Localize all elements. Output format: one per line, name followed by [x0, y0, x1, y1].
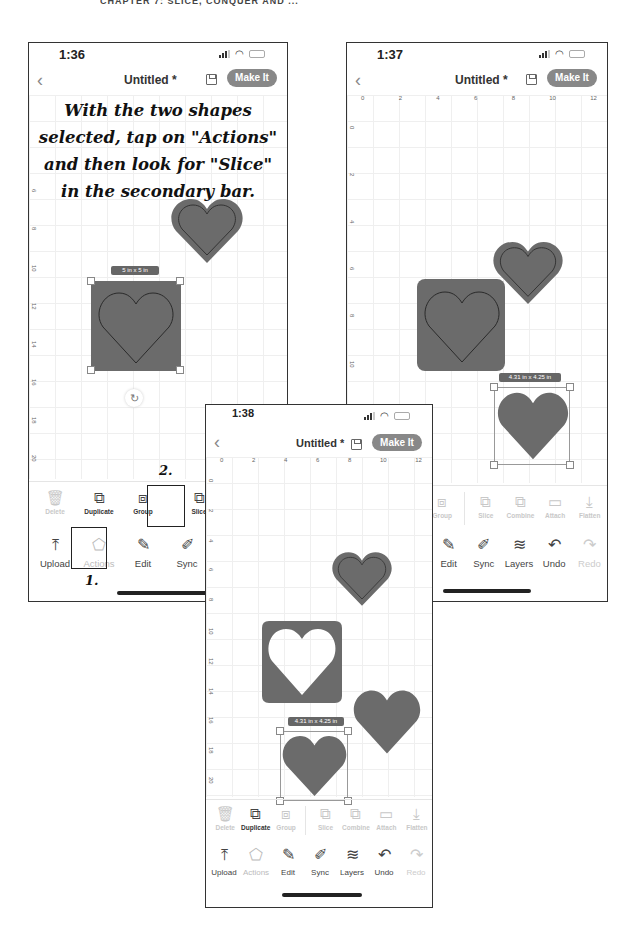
trash-icon: 🗑: [46, 490, 65, 505]
layers-icon: ≋: [346, 847, 359, 863]
sync-button[interactable]: ✐Sync: [304, 843, 336, 887]
home-indicator: [117, 591, 207, 595]
clock: 1:36: [59, 47, 85, 62]
delete-button[interactable]: 🗑Delete: [35, 482, 75, 529]
resize-handle[interactable]: [87, 366, 95, 374]
slice-button[interactable]: ⧉Slice: [310, 800, 340, 841]
ruler-left: 02468101214161820: [206, 469, 216, 797]
flatten-button[interactable]: ⤓Flatten: [402, 800, 432, 841]
design-canvas[interactable]: 024681012 02468101214161820 4.31 in x 4.…: [206, 457, 432, 797]
home-indicator: [282, 893, 362, 897]
rotate-icon[interactable]: ↻: [125, 389, 143, 407]
attach-button[interactable]: ▭Attach: [538, 486, 573, 531]
upload-button[interactable]: ⤒Upload: [208, 843, 240, 887]
flatten-button[interactable]: ⤓Flatten: [572, 486, 607, 531]
edit-button[interactable]: ✎Edit: [272, 843, 304, 887]
redo-button[interactable]: ↷Redo: [572, 533, 607, 579]
duplicate-button[interactable]: ⧉Duplicate: [240, 800, 270, 841]
nav-bar: ‹ Untitled * Make It: [206, 431, 432, 455]
duplicate-button[interactable]: ⧉Duplicate: [79, 482, 119, 529]
save-icon[interactable]: [206, 74, 217, 85]
group-icon: ⧈: [281, 806, 291, 821]
wifi-icon: ◠: [235, 50, 244, 58]
make-it-button[interactable]: Make It: [372, 434, 422, 451]
flatten-icon: ⤓: [586, 494, 593, 509]
dimension-label: 4.31 in x 4.25 in: [288, 717, 344, 726]
resize-handle[interactable]: [176, 277, 184, 285]
heart-outlined-shape[interactable]: [332, 549, 392, 609]
project-title: Untitled *: [296, 437, 344, 449]
toolbar-divider: [305, 806, 306, 835]
resize-handle[interactable]: [344, 727, 352, 735]
project-title: Untitled *: [455, 73, 508, 87]
resize-handle[interactable]: [566, 383, 574, 391]
signal-icon: [364, 412, 375, 420]
ruler-top: 024681012: [216, 457, 432, 469]
edit-button[interactable]: ✎Edit: [431, 533, 466, 579]
ruler-left: 68101214161820: [29, 175, 39, 479]
redo-button[interactable]: ↷Redo: [400, 843, 432, 887]
undo-button[interactable]: ↶Undo: [368, 843, 400, 887]
sync-icon: ✐: [477, 537, 490, 553]
heart-outlined-shape[interactable]: [171, 197, 243, 265]
resize-handle[interactable]: [490, 461, 498, 469]
undo-icon: ↶: [548, 537, 561, 553]
group-button[interactable]: ⧈Group: [271, 800, 301, 841]
battery-icon: [249, 50, 265, 58]
attach-icon: ▭: [379, 806, 393, 821]
sync-button[interactable]: ✐Sync: [165, 533, 209, 583]
heart-shape[interactable]: [352, 687, 422, 757]
sliced-square-shape[interactable]: [262, 621, 342, 703]
clock: 1:38: [232, 407, 254, 419]
heart-outline: [97, 291, 175, 365]
combine-icon: ⧉: [515, 494, 526, 509]
duplicate-icon: ⧉: [94, 490, 105, 505]
slice-icon: ⧉: [194, 490, 205, 505]
resize-handle[interactable]: [87, 277, 95, 285]
layers-button[interactable]: ≋Layers: [501, 533, 536, 579]
resize-handle[interactable]: [276, 727, 284, 735]
sync-button[interactable]: ✐Sync: [466, 533, 501, 579]
clock: 1:37: [377, 47, 403, 62]
status-icons: ◠: [539, 50, 585, 58]
edit-button[interactable]: ✎Edit: [121, 533, 165, 583]
slice-button[interactable]: ⧉Slice: [469, 486, 504, 531]
signal-icon: [219, 50, 230, 58]
nav-bar: ‹ Untitled * Make It: [347, 69, 607, 93]
project-title: Untitled *: [124, 73, 177, 87]
slice-icon: ⧉: [480, 494, 491, 509]
battery-icon: [394, 412, 410, 420]
save-icon[interactable]: [351, 439, 362, 450]
dimension-label: 5 in x 5 in: [111, 266, 159, 275]
combine-button[interactable]: ⧉Combine: [503, 486, 538, 531]
save-icon[interactable]: [526, 74, 537, 85]
undo-button[interactable]: ↶Undo: [537, 533, 572, 579]
layers-button[interactable]: ≋Layers: [336, 843, 368, 887]
redo-icon: ↷: [583, 537, 596, 553]
back-chevron-icon[interactable]: ‹: [37, 69, 43, 91]
flatten-icon: ⤓: [413, 806, 420, 821]
page-header: CHAPTER 7: SLICE, CONQUER AND ...: [100, 0, 420, 6]
status-bar: 1:37 ◠: [347, 43, 607, 71]
combine-button[interactable]: ⧉Combine: [341, 800, 371, 841]
delete-button[interactable]: 🗑Delete: [210, 800, 240, 841]
resize-handle[interactable]: [490, 383, 498, 391]
make-it-button[interactable]: Make It: [227, 69, 277, 87]
status-icons: ◠: [364, 412, 410, 420]
resize-handle[interactable]: [176, 366, 184, 374]
instruction-text: With the two shapes selected, tap on "Ac…: [37, 97, 279, 205]
resize-handle[interactable]: [566, 461, 574, 469]
battery-icon: [569, 50, 585, 58]
make-it-button[interactable]: Make It: [547, 69, 597, 87]
back-chevron-icon[interactable]: ‹: [214, 431, 220, 453]
heart-shape[interactable]: [281, 733, 348, 799]
actions-button[interactable]: ⬠Actions: [240, 843, 272, 887]
back-chevron-icon[interactable]: ‹: [355, 69, 361, 91]
dimension-label: 4.31 in x 4.25 in: [499, 373, 561, 382]
heart-outline: [423, 289, 501, 365]
edit-icon: ✎: [137, 537, 150, 553]
attach-button[interactable]: ▭Attach: [371, 800, 401, 841]
ruler-top: 024681012: [357, 95, 607, 107]
heart-shape[interactable]: [496, 389, 570, 463]
sync-icon: ✐: [314, 847, 327, 863]
